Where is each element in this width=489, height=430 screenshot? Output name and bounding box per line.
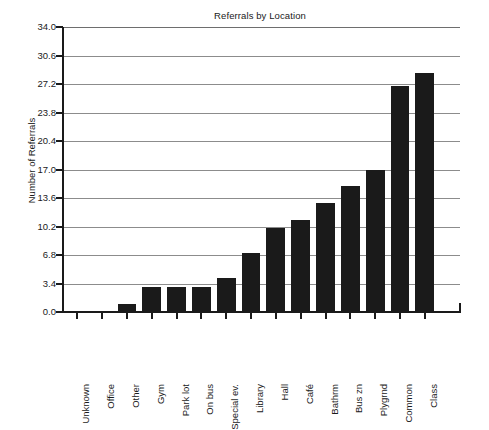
x-label-slot: Park lot xyxy=(176,318,178,388)
x-tick-label: Common xyxy=(404,384,414,423)
bar[interactable] xyxy=(118,304,137,312)
x-tick-label: Hall xyxy=(280,384,290,400)
y-tick-label: 10.2 xyxy=(14,221,56,232)
bar-slot xyxy=(65,27,90,312)
x-tick-label: Gym xyxy=(156,384,166,404)
x-label-slot: Other xyxy=(126,318,128,388)
x-label-slot: Bathrm xyxy=(325,318,327,388)
bar[interactable] xyxy=(316,203,335,312)
bar[interactable] xyxy=(341,186,360,312)
bar-slot xyxy=(164,27,189,312)
x-tick-label: Office xyxy=(106,384,116,409)
x-tick-label: Unknown xyxy=(81,384,91,424)
y-tick-label: 13.6 xyxy=(14,192,56,203)
x-label-slot: Special ev. xyxy=(225,318,227,388)
chart-title: Referrals by Location xyxy=(60,10,460,21)
bar[interactable] xyxy=(242,253,261,312)
bar-slot xyxy=(115,27,140,312)
y-tick-label: 27.2 xyxy=(14,78,56,89)
bar-slot xyxy=(263,27,288,312)
y-tick-label: 0.0 xyxy=(14,306,56,317)
x-tick-label: Park lot xyxy=(181,384,191,416)
x-tick-label: On bus xyxy=(205,384,215,415)
x-label-slot: Class xyxy=(424,318,426,388)
bar[interactable] xyxy=(142,287,161,312)
x-tick-label: Plygrnd xyxy=(379,384,389,416)
x-label-slot: Gym xyxy=(151,318,153,388)
x-tick-label: Café xyxy=(305,384,315,404)
x-tick-label: Library xyxy=(255,384,265,413)
bar[interactable] xyxy=(366,170,385,313)
bar[interactable] xyxy=(391,86,410,312)
bar[interactable] xyxy=(167,287,186,312)
x-label-slot: Café xyxy=(300,318,302,388)
bar-slot xyxy=(338,27,363,312)
bar[interactable] xyxy=(192,287,211,312)
y-tick-label: 23.8 xyxy=(14,107,56,118)
y-tick-label: 3.4 xyxy=(14,278,56,289)
x-label-slot: Unknown xyxy=(76,318,78,388)
bar-slot xyxy=(288,27,313,312)
x-tick-label: Other xyxy=(131,384,141,408)
bar[interactable] xyxy=(266,228,285,312)
bar-series xyxy=(63,27,460,312)
x-label-slot: On bus xyxy=(200,318,202,388)
bar-slot xyxy=(90,27,115,312)
bar-slot xyxy=(412,27,437,312)
bar[interactable] xyxy=(415,73,434,312)
x-tick-label: Bus zn xyxy=(354,384,364,413)
bar-slot xyxy=(239,27,264,312)
bar[interactable] xyxy=(217,278,236,312)
x-tick-label: Bathrm xyxy=(330,384,340,415)
x-tick-label: Special ev. xyxy=(230,384,240,430)
x-label-slot: Bus zn xyxy=(349,318,351,388)
y-tick-label: 17.0 xyxy=(14,164,56,175)
bar[interactable] xyxy=(291,220,310,312)
y-tick-label: 6.8 xyxy=(14,249,56,260)
bar-slot xyxy=(313,27,338,312)
y-tick-label: 30.6 xyxy=(14,50,56,61)
x-label-slot: Common xyxy=(399,318,401,388)
x-label-slot: Hall xyxy=(275,318,277,388)
x-tick-label: Class xyxy=(429,384,439,408)
x-axis-labels: UnknownOfficeOtherGymPark lotOn busSpeci… xyxy=(63,318,460,388)
x-label-slot: Office xyxy=(101,318,103,388)
bar-slot xyxy=(214,27,239,312)
bar-slot xyxy=(139,27,164,312)
bar-slot xyxy=(189,27,214,312)
x-label-slot: Library xyxy=(250,318,252,388)
bar-slot xyxy=(388,27,413,312)
bar-slot xyxy=(363,27,388,312)
y-tick-label: 34.0 xyxy=(14,21,56,32)
x-label-slot: Plygrnd xyxy=(374,318,376,388)
y-tick-label: 20.4 xyxy=(14,135,56,146)
